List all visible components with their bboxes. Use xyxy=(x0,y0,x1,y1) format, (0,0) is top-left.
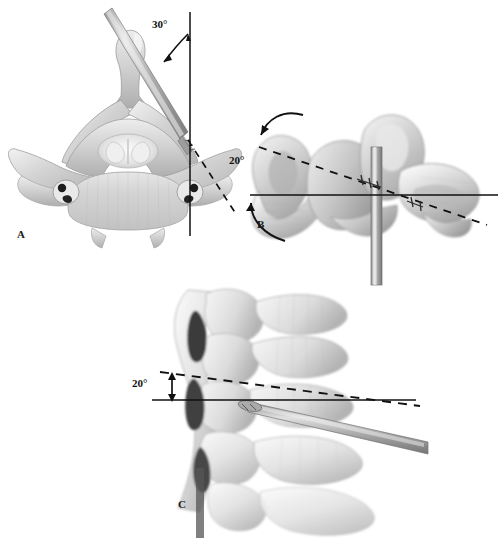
angle-label-c: 20° xyxy=(132,377,147,389)
panel-letter-a: A xyxy=(17,228,25,240)
panel-c: 20° C xyxy=(130,272,430,538)
angle-label-b: 20° xyxy=(229,154,244,166)
panel-letter-b: B xyxy=(257,218,265,230)
figure-canvas: 30° A xyxy=(0,0,503,538)
panel-letter-c: C xyxy=(178,498,186,510)
angle-label-a: 30° xyxy=(152,18,167,30)
drill-shaft-b xyxy=(371,147,382,285)
panel-b-illustration xyxy=(215,85,503,285)
angle-measure-arrow-c xyxy=(168,372,176,402)
vertebra-axial-body xyxy=(8,30,241,248)
rotation-arrow-upper-b xyxy=(261,113,303,135)
angle-arc-a xyxy=(164,34,191,62)
panel-c-illustration xyxy=(130,272,430,538)
vertical-rod-c xyxy=(196,468,204,538)
panel-b: 20° B xyxy=(215,85,503,285)
vertebra-posterior-body xyxy=(252,115,479,239)
